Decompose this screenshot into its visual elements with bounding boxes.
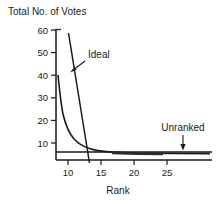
y-tick-label-60: 60 [37,25,48,36]
ideal-annotation-label: Ideal [88,49,110,60]
chart-title: Total No. of Votes [8,6,86,17]
y-tick-label-30: 30 [37,92,48,103]
unranked-arrow-icon [180,144,185,151]
x-tick-label-20: 20 [129,167,140,178]
chart-figure: Total No. of Votes 60 50 40 30 20 10 [0,0,217,201]
unranked-annotation-label: Unranked [161,122,204,133]
y-tick-label-50: 50 [37,47,48,58]
x-tick-label-10: 10 [63,167,74,178]
y-tick-labels: 60 50 40 30 20 10 [37,25,48,149]
y-tick-label-10: 10 [37,138,48,149]
x-tick-labels: 10 15 20 25 [63,167,173,178]
x-tick-label-25: 25 [162,167,173,178]
y-tick-label-20: 20 [37,115,48,126]
chart-canvas: Total No. of Votes 60 50 40 30 20 10 [0,0,217,201]
curve-overlap-segment [112,153,163,154]
x-tick-label-15: 15 [96,167,107,178]
x-axis-title: Rank [106,185,130,196]
y-tick-label-40: 40 [37,70,48,81]
observed-votes-curve [58,75,210,154]
